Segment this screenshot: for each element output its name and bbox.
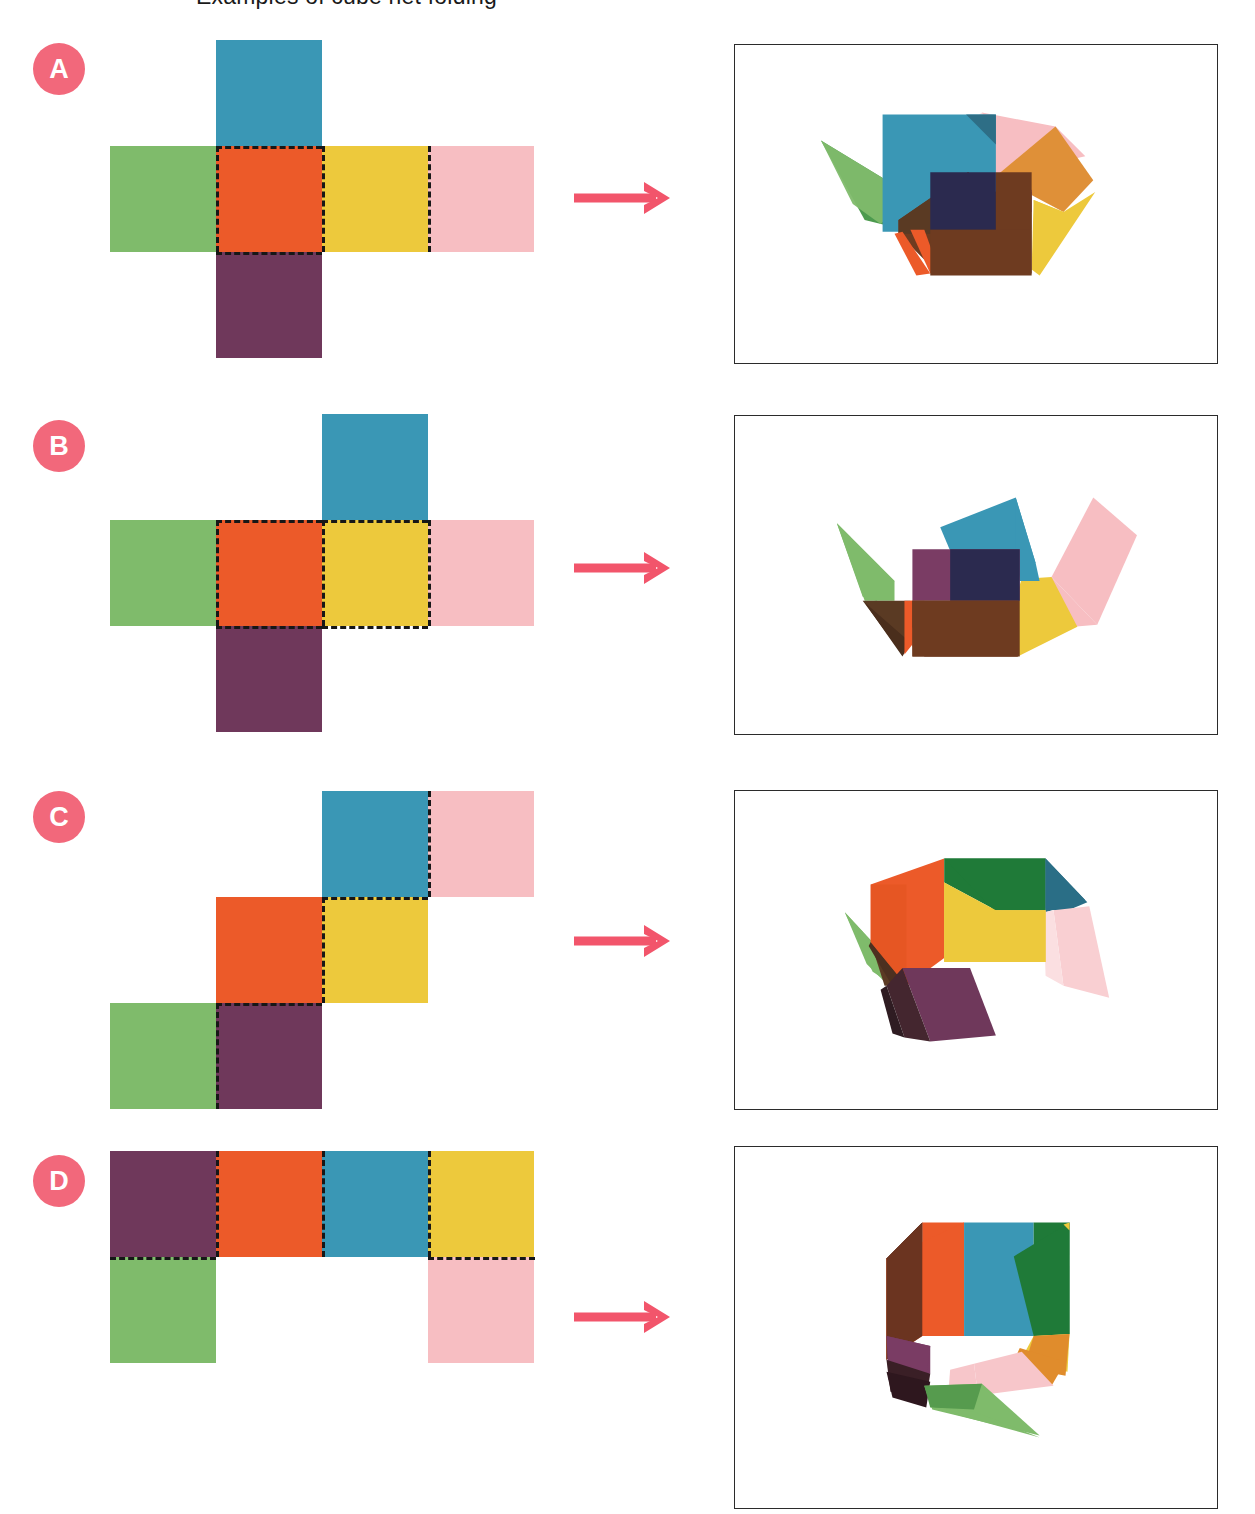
folds-into-arrow-c — [574, 921, 674, 961]
net-cell-green — [110, 520, 216, 626]
folded-render-panel-c — [734, 790, 1218, 1110]
folded-render-panel-d — [734, 1146, 1218, 1509]
net-cell-green — [110, 1257, 216, 1363]
net-cell-orange — [216, 520, 322, 626]
net-cell-purple — [216, 252, 322, 358]
net-cell-yellow — [428, 1151, 534, 1257]
fold-line-vertical — [428, 791, 431, 897]
fold-line-horizontal — [216, 252, 322, 255]
folds-into-arrow-a — [574, 178, 674, 218]
fold-line-vertical — [322, 146, 325, 252]
net-b — [110, 414, 535, 736]
net-cell-yellow — [322, 520, 428, 626]
row-c: C — [0, 763, 1255, 1131]
fold-line-vertical — [428, 1151, 431, 1257]
net-cell-blue — [322, 414, 428, 520]
fold-line-horizontal — [322, 520, 428, 523]
row-d: D — [0, 1131, 1255, 1514]
folded-cube-render-d — [735, 1147, 1217, 1508]
net-cell-yellow — [322, 897, 428, 1003]
net-cell-pink — [428, 1257, 534, 1363]
net-cell-green — [110, 146, 216, 252]
net-cell-green — [110, 1003, 216, 1109]
net-cell-pink — [428, 520, 534, 626]
fold-line-horizontal — [322, 626, 428, 629]
folded-render-panel-b — [734, 415, 1218, 735]
fold-line-horizontal — [216, 146, 322, 149]
net-cell-blue — [216, 40, 322, 146]
folds-into-arrow-d — [574, 1297, 674, 1337]
net-cell-pink — [428, 146, 534, 252]
net-cell-purple — [216, 626, 322, 732]
fold-line-horizontal — [216, 520, 322, 523]
net-cell-purple — [216, 1003, 322, 1109]
net-c — [110, 791, 535, 1113]
fold-line-horizontal — [428, 1257, 535, 1260]
folded-render-panel-a — [734, 44, 1218, 364]
cube-net-folding-figure: Examples of cube net folding A — [0, 0, 1255, 1514]
folded-cube-render-c — [735, 791, 1217, 1109]
row-label-badge-c: C — [33, 791, 85, 843]
net-d — [110, 1151, 535, 1363]
row-label-badge-a: A — [33, 43, 85, 95]
net-cell-orange — [216, 1151, 322, 1257]
row-label-badge-d: D — [33, 1155, 85, 1207]
folds-into-arrow-b — [574, 548, 674, 588]
folded-cube-render-b — [735, 416, 1217, 734]
fold-line-vertical — [322, 520, 325, 626]
row-label-badge-b: B — [33, 420, 85, 472]
row-label-text-c: C — [49, 804, 69, 831]
row-label-text-d: D — [49, 1168, 69, 1195]
fold-line-horizontal — [216, 1003, 322, 1006]
row-a: A — [0, 0, 1255, 392]
fold-line-vertical — [216, 146, 219, 252]
fold-line-vertical — [216, 1151, 219, 1257]
fold-line-horizontal — [322, 897, 428, 900]
folded-cube-render-a — [735, 45, 1217, 363]
net-cell-purple — [110, 1151, 216, 1257]
fold-line-horizontal — [216, 626, 322, 629]
row-label-text-b: B — [49, 433, 69, 460]
fold-line-vertical — [216, 520, 219, 626]
fold-line-vertical — [428, 146, 431, 252]
net-cell-orange — [216, 897, 322, 1003]
net-cell-pink — [428, 791, 534, 897]
net-cell-yellow — [322, 146, 428, 252]
net-cell-blue — [322, 791, 428, 897]
row-b: B — [0, 392, 1255, 763]
row-label-text-a: A — [49, 56, 69, 83]
fold-line-vertical — [216, 1003, 219, 1109]
fold-line-vertical — [322, 1151, 325, 1257]
net-a — [110, 40, 535, 362]
fold-line-vertical — [428, 520, 431, 626]
fold-line-horizontal — [110, 1257, 216, 1260]
fold-line-vertical — [322, 897, 325, 1003]
net-cell-orange — [216, 146, 322, 252]
net-cell-blue — [322, 1151, 428, 1257]
